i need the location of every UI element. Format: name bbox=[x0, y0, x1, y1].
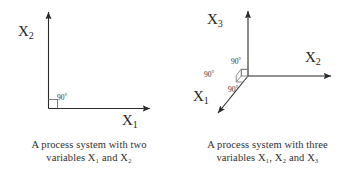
caption-three-variable: A process system with three variables X₁… bbox=[178, 138, 357, 164]
diagram-panel-three-variable: X3 X2 X1 90° 90° 90° A process system wi… bbox=[178, 0, 357, 174]
axis-label-x2-base: X bbox=[305, 49, 316, 65]
figure-root: X2 X1 90° A process system with two vari… bbox=[0, 0, 357, 174]
right-angle-skew-marker-left bbox=[236, 69, 241, 82]
angle-label-origin: 90° bbox=[57, 93, 67, 102]
angle-value: 90 bbox=[204, 70, 212, 79]
caption-line-1: A process system with two bbox=[0, 138, 178, 151]
axis-label-x3-base: X bbox=[207, 11, 218, 27]
axis-label-x2-subscript: 2 bbox=[316, 56, 321, 67]
axis-label-x1-base: X bbox=[193, 88, 204, 104]
right-angle-square-marker-top bbox=[242, 70, 249, 77]
axis-label-x1-subscript: 1 bbox=[133, 119, 138, 130]
axis-label-x3: X3 bbox=[207, 12, 223, 29]
angle-label-top: 90° bbox=[231, 57, 241, 66]
axis-label-x2: X2 bbox=[305, 50, 321, 67]
degree-symbol-icon: ° bbox=[239, 56, 242, 63]
degree-symbol-icon: ° bbox=[212, 69, 215, 76]
two-variable-axes-drawing bbox=[0, 0, 178, 138]
angle-value: 90 bbox=[231, 57, 239, 66]
three-variable-axes-drawing bbox=[178, 0, 357, 138]
axis-label-x2-base: X bbox=[18, 23, 29, 39]
axis-label-x1: X1 bbox=[122, 113, 138, 130]
axis-label-x2: X2 bbox=[18, 24, 34, 41]
axis-label-x2-subscript: 2 bbox=[29, 30, 34, 41]
caption-line-1: A process system with three bbox=[178, 138, 357, 151]
right-angle-box-top bbox=[241, 69, 248, 76]
caption-line-2: variables X₁, X₂ and X₃ bbox=[178, 151, 357, 164]
angle-label-left: 90° bbox=[204, 70, 214, 79]
caption-line-2: variables X₁ and X₂ bbox=[0, 151, 178, 164]
angle-value: 90 bbox=[228, 85, 236, 94]
axis-label-x1: X1 bbox=[193, 89, 209, 106]
angle-label-bottom: 90° bbox=[228, 85, 238, 94]
caption-two-variable: A process system with two variables X₁ a… bbox=[0, 138, 178, 164]
diagram-panel-two-variable: X2 X1 90° A process system with two vari… bbox=[0, 0, 178, 174]
degree-symbol-icon: ° bbox=[65, 92, 68, 99]
angle-value: 90 bbox=[57, 93, 65, 102]
axis-label-x1-base: X bbox=[122, 112, 133, 128]
axis-label-x1-subscript: 1 bbox=[204, 95, 209, 106]
axis-label-x3-subscript: 3 bbox=[218, 18, 223, 29]
degree-symbol-icon: ° bbox=[236, 84, 239, 91]
